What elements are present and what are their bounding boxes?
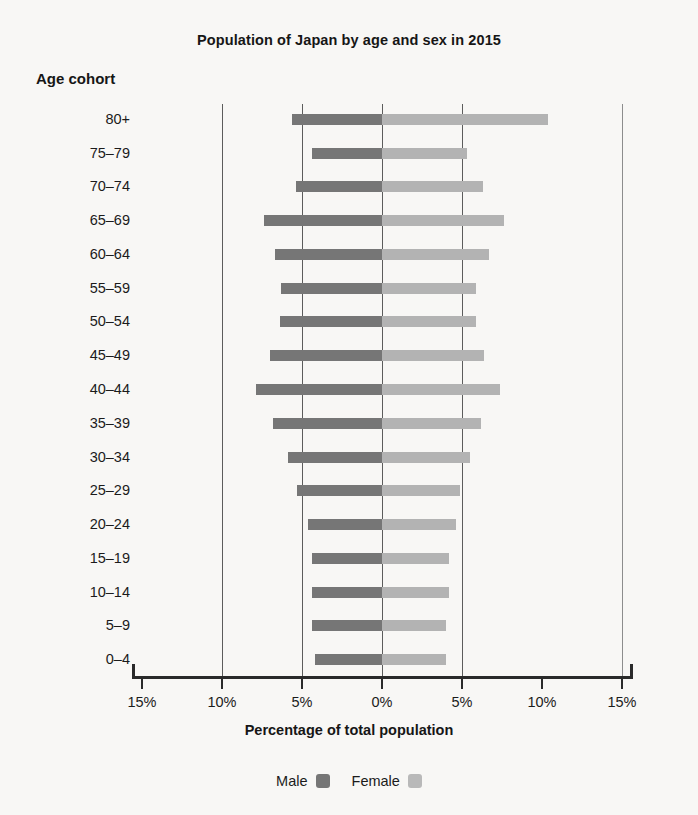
bar-female-3034 bbox=[382, 452, 470, 463]
bar-female-04 bbox=[382, 654, 446, 665]
bar-male-1014 bbox=[312, 587, 382, 598]
bar-male-2529 bbox=[297, 485, 382, 496]
cohort-label-5559: 55–59 bbox=[10, 280, 130, 296]
bar-male-1519 bbox=[312, 553, 382, 564]
pyramid-row: 70–74 bbox=[132, 172, 633, 206]
x-axis-tick-5 bbox=[541, 678, 543, 689]
pyramid-row: 40–44 bbox=[132, 374, 633, 408]
legend-item-female: Female bbox=[352, 773, 422, 789]
bar-female-80+ bbox=[382, 114, 548, 125]
bar-female-5054 bbox=[382, 316, 476, 327]
legend-label-female: Female bbox=[352, 773, 400, 789]
legend-label-male: Male bbox=[276, 773, 307, 789]
cohort-label-4549: 45–49 bbox=[10, 347, 130, 363]
pyramid-row: 75–79 bbox=[132, 138, 633, 172]
pyramid-row: 30–34 bbox=[132, 442, 633, 476]
x-axis-tick-label-0: 15% bbox=[127, 694, 156, 710]
bar-male-3034 bbox=[288, 452, 382, 463]
pyramid-row: 20–24 bbox=[132, 509, 633, 543]
pyramid-row: 80+ bbox=[132, 104, 633, 138]
pyramid-row: 5–9 bbox=[132, 610, 633, 644]
bar-male-4044 bbox=[256, 384, 382, 395]
plot-area: 15%10%5%0%5%10%15%80+75–7970–7465–6960–6… bbox=[132, 104, 633, 678]
bar-female-1519 bbox=[382, 553, 449, 564]
pyramid-row: 15–19 bbox=[132, 543, 633, 577]
x-axis-tick-label-2: 5% bbox=[292, 694, 313, 710]
x-axis-tick-label-6: 15% bbox=[607, 694, 636, 710]
bar-female-4044 bbox=[382, 384, 500, 395]
bar-male-7074 bbox=[296, 181, 382, 192]
bar-female-4549 bbox=[382, 350, 484, 361]
cohort-label-1519: 15–19 bbox=[10, 550, 130, 566]
x-axis-tick-label-4: 5% bbox=[452, 694, 473, 710]
x-axis-tick-6 bbox=[621, 678, 623, 689]
chart-title: Population of Japan by age and sex in 20… bbox=[0, 32, 698, 48]
cohort-label-59: 5–9 bbox=[10, 617, 130, 633]
pyramid-row: 35–39 bbox=[132, 408, 633, 442]
x-axis-tick-label-3: 0% bbox=[372, 694, 393, 710]
bar-male-80+ bbox=[292, 114, 382, 125]
bar-male-59 bbox=[312, 620, 382, 631]
bar-male-7579 bbox=[312, 148, 382, 159]
pyramid-row: 60–64 bbox=[132, 239, 633, 273]
pyramid-row: 65–69 bbox=[132, 205, 633, 239]
pyramid-row: 55–59 bbox=[132, 273, 633, 307]
legend-item-male: Male bbox=[276, 773, 329, 789]
x-axis-tick-label-5: 10% bbox=[527, 694, 556, 710]
pyramid-row: 10–14 bbox=[132, 577, 633, 611]
bar-female-1014 bbox=[382, 587, 449, 598]
bar-male-4549 bbox=[270, 350, 382, 361]
y-axis-title: Age cohort bbox=[36, 70, 115, 87]
population-pyramid-chart: Population of Japan by age and sex in 20… bbox=[0, 0, 698, 815]
pyramid-row: 50–54 bbox=[132, 307, 633, 341]
x-axis-tick-0 bbox=[141, 678, 143, 689]
cohort-label-6064: 60–64 bbox=[10, 246, 130, 262]
cohort-label-3034: 30–34 bbox=[10, 449, 130, 465]
x-axis-tick-4 bbox=[461, 678, 463, 689]
pyramid-row: 0–4 bbox=[132, 644, 633, 678]
legend-swatch-female-icon bbox=[408, 774, 422, 788]
bar-male-6569 bbox=[264, 215, 382, 226]
bar-male-04 bbox=[315, 654, 382, 665]
chart-legend: Male Female bbox=[0, 773, 698, 789]
cohort-label-4044: 40–44 bbox=[10, 381, 130, 397]
cohort-label-7579: 75–79 bbox=[10, 145, 130, 161]
bar-male-5559 bbox=[281, 283, 382, 294]
bar-female-3539 bbox=[382, 418, 481, 429]
cohort-label-1014: 10–14 bbox=[10, 584, 130, 600]
x-axis-tick-label-1: 10% bbox=[207, 694, 236, 710]
cohort-label-2529: 25–29 bbox=[10, 482, 130, 498]
pyramid-row: 25–29 bbox=[132, 475, 633, 509]
bar-female-59 bbox=[382, 620, 446, 631]
cohort-label-2024: 20–24 bbox=[10, 516, 130, 532]
bar-female-6064 bbox=[382, 249, 489, 260]
bar-female-7579 bbox=[382, 148, 467, 159]
cohort-label-3539: 35–39 bbox=[10, 415, 130, 431]
bar-female-2529 bbox=[382, 485, 460, 496]
bar-male-5054 bbox=[280, 316, 382, 327]
x-axis-tick-1 bbox=[221, 678, 223, 689]
bar-male-2024 bbox=[308, 519, 382, 530]
x-axis-tick-2 bbox=[301, 678, 303, 689]
cohort-label-6569: 65–69 bbox=[10, 212, 130, 228]
cohort-label-7074: 70–74 bbox=[10, 178, 130, 194]
x-axis-title: Percentage of total population bbox=[0, 722, 698, 738]
bar-male-3539 bbox=[273, 418, 382, 429]
bar-female-5559 bbox=[382, 283, 476, 294]
bar-male-6064 bbox=[275, 249, 382, 260]
pyramid-row: 45–49 bbox=[132, 340, 633, 374]
bar-female-2024 bbox=[382, 519, 456, 530]
legend-swatch-male-icon bbox=[316, 774, 330, 788]
cohort-label-80+: 80+ bbox=[10, 111, 130, 127]
x-axis-tick-3 bbox=[381, 678, 383, 689]
cohort-label-5054: 50–54 bbox=[10, 313, 130, 329]
bar-female-7074 bbox=[382, 181, 483, 192]
bar-female-6569 bbox=[382, 215, 504, 226]
cohort-label-04: 0–4 bbox=[10, 651, 130, 667]
